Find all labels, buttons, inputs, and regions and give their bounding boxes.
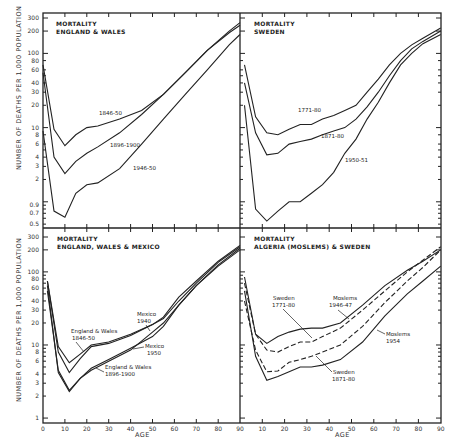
y-tick-label: 4 [35, 153, 39, 160]
y-tick-label: 60 [31, 284, 39, 291]
x-tick-label: 20 [281, 425, 289, 432]
label-ew-1896-1900-b: 1896-1900 [105, 371, 135, 377]
label-mexico-1940-b: 1940 [137, 318, 151, 324]
series-line-1896-1900 [43, 25, 240, 173]
series-line-moslems-1954 [245, 266, 441, 380]
x-tick-label: 60 [370, 425, 378, 432]
y-tick-label: 20 [31, 319, 39, 326]
y-tick-label: 100 [28, 268, 40, 275]
y-tick-label: 40 [31, 79, 39, 86]
series-line-1846-50 [43, 23, 240, 146]
label-sweden-1871-80-a: Sweden [333, 369, 355, 375]
label-mexico-1950-b: 1950 [147, 350, 161, 356]
y-tick-label: 200 [28, 27, 40, 34]
label-ew-1846-50-a: England & Wales [71, 328, 117, 335]
label-1846-50: 1846-50 [99, 110, 122, 116]
series-line-1946-50 [43, 35, 240, 218]
label-1871-80: 1871-80 [321, 133, 344, 139]
mortality-chart: 300200100806040302010864320.90.70.530020… [0, 0, 452, 444]
y-tick-label: 20 [31, 101, 39, 108]
y-tick-label: 0.7 [29, 209, 39, 216]
x-tick-label: 40 [325, 425, 333, 432]
leader-line [283, 309, 312, 338]
panel-title-br-2: ALGERIA (MOSLEMS) & SWEDEN [254, 243, 371, 250]
leader-line [377, 330, 385, 334]
y-tick-label: 60 [31, 66, 39, 73]
y-tick-label: 100 [28, 49, 40, 56]
panel-title-br-1: MORTALITY [254, 235, 295, 242]
x-tick-label: 80 [415, 425, 423, 432]
label-ew-1846-50-b: 1846-50 [72, 335, 95, 341]
label-moslems-1954-b: 1954 [386, 338, 400, 344]
y-axis-label-top: NUMBER OF DEATHS PER 1,000 POPULATION [15, 6, 23, 170]
x-tick-label: 90 [236, 425, 244, 432]
y-tick-label: 8 [35, 348, 39, 355]
label-moslems-1954-a: Moslems [386, 331, 410, 337]
y-tick-label: 3 [35, 379, 39, 386]
x-tick-label: 30 [303, 425, 311, 432]
x-axis-label-right: AGE [335, 431, 350, 439]
label-sweden-1871-80-b: 1871-80 [332, 376, 355, 382]
label-1896-1900: 1896-1900 [110, 142, 140, 148]
label-1946-50: 1946-50 [133, 165, 156, 171]
panel-title-tr-2: SWEDEN [254, 28, 285, 35]
leader-line [316, 356, 332, 372]
y-tick-label: 80 [31, 275, 39, 282]
panel-title-tr-1: MORTALITY [254, 20, 295, 27]
y-tick-label: 300 [28, 14, 40, 21]
leader-line [96, 368, 104, 372]
x-tick-label: 10 [61, 425, 69, 432]
label-moslems-1946-47-a: Moslems [333, 295, 357, 301]
panel-title-bl-1: MORTALITY [57, 235, 98, 242]
y-tick-label: 10 [31, 124, 39, 131]
panel-title-bl-2: ENGLAND, WALES & MEXICO [57, 243, 160, 250]
y-tick-label: 4 [35, 370, 39, 377]
x-tick-label: 70 [392, 425, 400, 432]
y-tick-label: 6 [35, 357, 39, 364]
leader-line [76, 342, 84, 352]
label-1950-51: 1950-51 [345, 157, 368, 163]
y-tick-label: 200 [28, 246, 40, 253]
y-tick-label: 300 [28, 233, 40, 240]
series-line-mexico-1940 [47, 247, 240, 373]
y-tick-label: 30 [31, 306, 39, 313]
panel-title-tl-1: MORTALITY [56, 20, 97, 27]
x-tick-label: 0 [41, 425, 45, 432]
series-line-england-wales-1846-50 [47, 245, 240, 362]
x-tick-label: 70 [192, 425, 200, 432]
data-series [43, 23, 441, 392]
y-tick-label: 30 [31, 88, 39, 95]
label-moslems-1946-47-b: 1946-47 [329, 302, 352, 308]
x-tick-label: 10 [258, 425, 266, 432]
y-tick-label: 0.9 [29, 201, 39, 208]
y-tick-label: 80 [31, 57, 39, 64]
label-1771-80: 1771-80 [298, 107, 321, 113]
label-sweden-1771-80-a: Sweden [273, 295, 295, 301]
y-tick-label: 0.5 [29, 220, 39, 227]
series-line-1771-80 [245, 28, 441, 135]
x-tick-label: 80 [214, 425, 222, 432]
label-mexico-1950-a: Mexico [145, 343, 165, 349]
panel-title-tl-2: ENGLAND & WALES [56, 28, 126, 35]
y-tick-label: 2 [35, 392, 39, 399]
label-sweden-1771-80-b: 1771-80 [272, 302, 295, 308]
y-tick-label: 1 [35, 414, 39, 421]
y-tick-label: 8 [35, 131, 39, 138]
x-axis-label-left: AGE [135, 431, 150, 439]
y-tick-label: 3 [35, 162, 39, 169]
label-mexico-1940-a: Mexico [137, 311, 157, 317]
x-tick-label: 40 [127, 425, 135, 432]
y-tick-label: 10 [31, 341, 39, 348]
leader-line [338, 310, 349, 319]
y-tick-label: 6 [35, 140, 39, 147]
x-tick-label: 90 [437, 425, 445, 432]
x-tick-label: 60 [171, 425, 179, 432]
y-tick-label: 40 [31, 297, 39, 304]
label-ew-1896-1900-a: England & Wales [105, 364, 151, 371]
y-tick-label: 2 [35, 175, 39, 182]
x-tick-label: 20 [83, 425, 91, 432]
x-tick-label: 30 [105, 425, 113, 432]
y-axis-label-bottom: NUMBER OF DEATHS PER 1,000 POPULATION [15, 238, 23, 402]
